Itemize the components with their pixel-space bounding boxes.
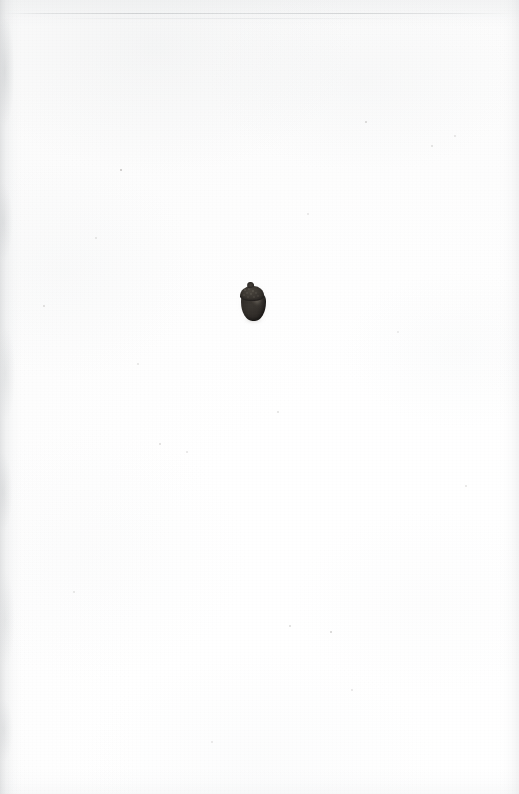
top-hairline-secondary xyxy=(40,18,429,19)
right-edge-shadow xyxy=(497,0,519,794)
bottom-edge-band xyxy=(0,768,519,794)
acorn-specimen xyxy=(238,282,270,324)
left-edge-mottling xyxy=(0,0,16,794)
paper-background xyxy=(0,0,519,794)
top-hairline xyxy=(4,13,513,14)
acorn-cap-texture xyxy=(240,286,264,301)
top-edge-band xyxy=(0,0,519,34)
scanned-plate-page xyxy=(0,0,519,794)
